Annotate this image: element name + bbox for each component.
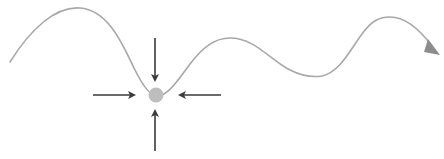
ball xyxy=(149,88,164,103)
wavy-curve xyxy=(10,8,432,96)
stable-equilibrium-diagram xyxy=(0,0,444,159)
curve-arrowhead-icon xyxy=(424,39,440,55)
